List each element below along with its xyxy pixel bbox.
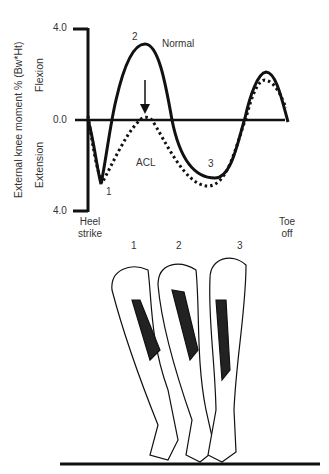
y-tick-bottom: 4.0 [53,205,67,216]
flexion-label: Flexion [33,58,45,92]
y-tick-zero: 0.0 [53,114,67,125]
toe-off-label: Toe off [272,216,302,240]
y-axis-title: External knee moment % (Bw*Ht) [12,42,24,198]
heel-strike-label: Heel strike [72,216,108,240]
normal-curve [88,44,288,184]
point-3-label: 3 [208,158,214,169]
acl-label: ACL [136,157,155,168]
phase-1-label: 1 [131,240,137,251]
extension-label: Extension [33,142,45,188]
leg-illustrations [112,258,246,462]
y-tick-top: 4.0 [53,22,67,33]
phase-2-label: 2 [176,240,182,251]
point-2-label: 2 [132,31,138,42]
phase-3-label: 3 [237,240,243,251]
normal-label: Normal [162,38,194,49]
point-1-label: 1 [106,186,112,197]
